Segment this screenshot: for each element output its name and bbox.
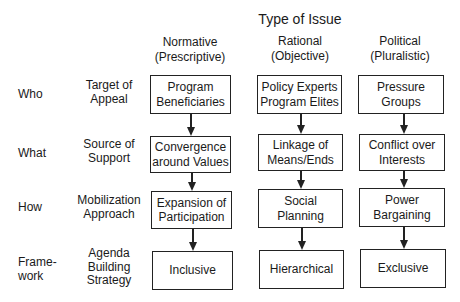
column-subname: (Prescriptive) — [140, 50, 240, 64]
box-policy-experts-program-elites: Policy Experts Program Elites — [257, 75, 342, 114]
column-subname: (Objective) — [250, 49, 350, 63]
column-header-rational: Rational (Objective) — [250, 34, 350, 63]
box-hierarchical: Hierarchical — [259, 250, 344, 289]
column-name: Rational — [250, 34, 350, 48]
column-name: Political — [350, 34, 450, 48]
diagram-title: Type of Issue — [230, 11, 370, 27]
box-expansion-of-participation: Expansion of Participation — [151, 191, 232, 229]
row-label-framework: Frame- work — [18, 255, 57, 283]
box-social-planning: Social Planning — [258, 189, 343, 228]
row-label-what: What — [18, 146, 46, 160]
dimension-target-of-appeal: Target of Appeal — [64, 79, 154, 106]
box-program-beneficiaries: Program Beneficiaries — [150, 75, 231, 114]
column-name: Normative — [140, 35, 240, 49]
row-label-who: Who — [18, 87, 43, 101]
column-header-normative: Normative (Prescriptive) — [140, 35, 240, 64]
box-conflict-over-interests: Conflict over Interests — [359, 134, 445, 171]
column-subname: (Pluralistic) — [350, 49, 450, 63]
box-exclusive: Exclusive — [360, 249, 446, 288]
dimension-source-of-support: Source of Support — [64, 138, 154, 165]
box-power-bargaining: Power Bargaining — [359, 188, 445, 227]
dimension-agenda-building-strategy: Agenda Building Strategy — [64, 247, 154, 288]
column-header-political: Political (Pluralistic) — [350, 34, 450, 63]
box-pressure-groups: Pressure Groups — [358, 75, 444, 114]
row-label-how: How — [18, 200, 42, 214]
box-linkage-of-means-ends: Linkage of Means/Ends — [258, 134, 343, 171]
box-convergence-around-values: Convergence around Values — [150, 136, 231, 173]
dimension-mobilization-approach: Mobilization Approach — [64, 194, 154, 221]
box-inclusive: Inclusive — [152, 251, 233, 290]
